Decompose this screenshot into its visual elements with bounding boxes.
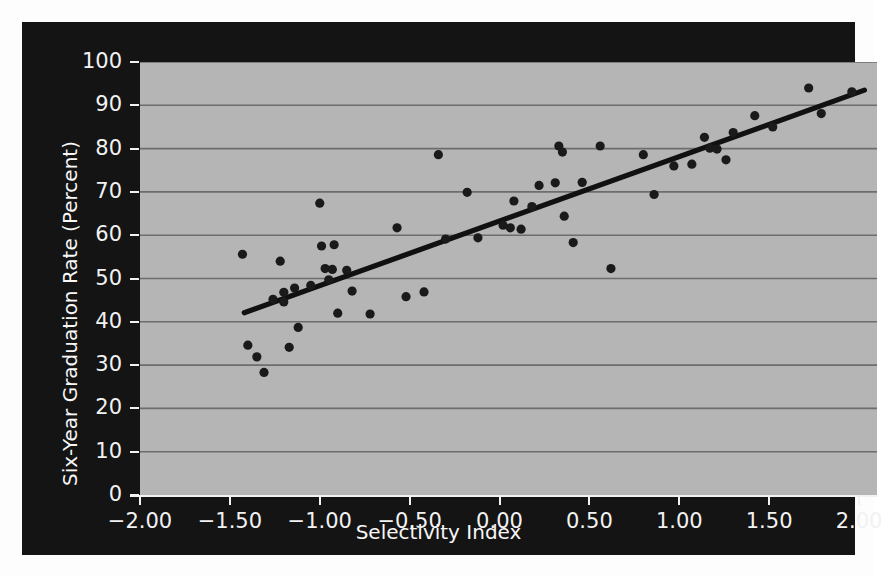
- y-tick-mark: [130, 104, 139, 106]
- data-point: [315, 199, 324, 208]
- y-axis-label: Six-Year Graduation Rate (Percent): [60, 141, 80, 486]
- y-tick-mark: [130, 278, 139, 280]
- x-tick-mark: [499, 496, 501, 505]
- data-point: [342, 266, 351, 275]
- data-point: [279, 288, 288, 297]
- y-tick-mark: [130, 61, 139, 63]
- x-tick-mark: [229, 496, 231, 505]
- x-tick-mark: [768, 496, 770, 505]
- plot-area: [140, 62, 877, 495]
- data-point: [252, 352, 261, 361]
- data-point: [687, 160, 696, 169]
- y-tick-label: 0: [60, 484, 122, 505]
- data-point: [506, 223, 515, 232]
- x-tick-mark: [319, 496, 321, 505]
- x-axis-line: [130, 495, 877, 497]
- data-point: [534, 181, 543, 190]
- data-point: [804, 83, 813, 92]
- data-point: [238, 250, 247, 259]
- data-point: [294, 323, 303, 332]
- y-tick-mark: [130, 364, 139, 366]
- data-point: [365, 309, 374, 318]
- data-point: [606, 264, 615, 273]
- data-point: [768, 122, 777, 131]
- x-axis-label: Selectivity Index: [22, 522, 855, 542]
- data-point: [290, 283, 299, 292]
- data-point: [847, 87, 856, 96]
- data-point: [669, 161, 678, 170]
- x-tick-mark: [678, 496, 680, 505]
- plot-svg: [140, 62, 877, 495]
- data-point: [463, 188, 472, 197]
- x-tick-mark: [139, 496, 141, 505]
- data-point: [328, 265, 337, 274]
- data-point: [596, 141, 605, 150]
- data-point: [441, 234, 450, 243]
- data-point: [330, 240, 339, 249]
- x-tick-mark: [409, 496, 411, 505]
- data-point: [401, 292, 410, 301]
- data-point: [712, 144, 721, 153]
- y-tick-mark: [130, 234, 139, 236]
- y-tick-mark: [130, 321, 139, 323]
- data-point: [268, 295, 277, 304]
- y-tick-mark: [130, 148, 139, 150]
- data-point: [569, 238, 578, 247]
- data-point: [243, 341, 252, 350]
- y-tick-label: 90: [60, 94, 122, 115]
- x-tick-mark: [588, 496, 590, 505]
- data-point: [750, 111, 759, 120]
- data-point: [639, 150, 648, 159]
- data-point: [276, 257, 285, 266]
- data-point: [516, 225, 525, 234]
- data-point: [700, 133, 709, 142]
- data-point: [817, 109, 826, 118]
- data-point: [324, 275, 333, 284]
- data-point: [558, 147, 567, 156]
- data-point: [317, 241, 326, 250]
- data-point: [729, 128, 738, 137]
- data-point: [285, 343, 294, 352]
- data-point: [259, 368, 268, 377]
- data-point: [527, 202, 536, 211]
- data-point: [551, 178, 560, 187]
- x-tick-mark: [858, 496, 860, 505]
- data-point: [578, 178, 587, 187]
- data-point: [473, 233, 482, 242]
- data-point: [348, 286, 357, 295]
- y-tick-mark: [130, 451, 139, 453]
- y-tick-mark: [130, 191, 139, 193]
- data-point: [333, 309, 342, 318]
- data-point: [434, 150, 443, 159]
- y-tick-mark: [130, 407, 139, 409]
- data-point: [392, 223, 401, 232]
- data-point: [419, 287, 428, 296]
- data-point: [560, 212, 569, 221]
- data-point: [721, 155, 730, 164]
- data-point: [650, 190, 659, 199]
- data-point: [306, 281, 315, 290]
- y-tick-label: 100: [60, 51, 122, 72]
- chart-panel: 0102030405060708090100 −2.00−1.50−1.00−0…: [22, 22, 855, 555]
- data-point: [279, 297, 288, 306]
- data-point: [509, 196, 518, 205]
